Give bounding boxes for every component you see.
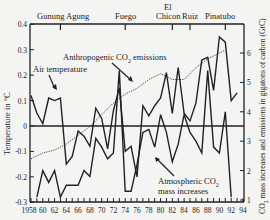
x-tick-label: 66 (74, 206, 82, 215)
x-tick-label: 62 (51, 206, 59, 215)
annotation-emissions: Anthropogenic CO2 emissions (63, 52, 167, 64)
x-tick-label: 76 (133, 206, 141, 215)
y-right-tick-label: 3 (247, 137, 251, 146)
x-tick-label: 72 (110, 206, 118, 215)
annotation-air-temperature: Air temperature (33, 64, 87, 74)
arrow-icon (112, 63, 131, 80)
y-right-tick-label: 2 (247, 167, 251, 176)
x-tick-label: 60 (39, 206, 47, 215)
y-tick-label: 0 (23, 122, 27, 131)
x-tick-label: 88 (204, 206, 212, 215)
y-right-tick-label: 1 (247, 196, 251, 205)
arrow-icon (157, 159, 174, 176)
annotation-co2-mass-2: mass increases (158, 186, 208, 196)
y-axis-title-left: Temperature in °C (2, 92, 12, 155)
x-tick-label: 68 (86, 206, 94, 215)
x-tick-label: 92 (227, 206, 235, 215)
x-tick-label: 78 (145, 206, 153, 215)
x-tick-label: 70 (98, 206, 106, 215)
x-tick-label: 64 (63, 206, 71, 215)
volcano-label: Gunung Agung (37, 11, 90, 21)
y-tick-label: 0.2 (18, 71, 28, 80)
arrowhead-icon (128, 76, 133, 82)
x-tick-label: 80 (157, 206, 165, 215)
chart: 1958606264666870727476788082848688909294… (0, 0, 270, 220)
x-tick-label: 94 (239, 206, 247, 215)
x-tick-label: 74 (121, 206, 129, 215)
volcano-label: Ruiz (182, 11, 198, 21)
x-tick-label: 90 (216, 206, 224, 215)
y-tick-label: -0.1 (15, 147, 27, 156)
volcano-label: Fuego (115, 11, 136, 21)
volcano-label: Chicon (156, 11, 181, 21)
y-right-tick-label: 6 (247, 49, 251, 58)
y-right-tick-label: 4 (247, 108, 251, 117)
y-tick-label: -0.2 (15, 173, 27, 182)
y-tick-label: 0.3 (18, 46, 28, 55)
x-tick-label: 84 (180, 206, 188, 215)
x-tick-label: 1958 (22, 206, 37, 215)
volcano-label: Pinatubo (205, 11, 235, 21)
x-tick-label: 82 (169, 206, 177, 215)
volcano-ticks (60, 24, 225, 30)
x-tick-label: 86 (192, 206, 200, 215)
y-right-tick-label: 5 (247, 78, 251, 87)
y-tick-label: 0.1 (18, 97, 28, 106)
y-tick-label: -0.3 (15, 198, 27, 207)
y-axis-title-right: CO2 mass increases and emissions in giga… (258, 18, 269, 214)
y-tick-label: 0.4 (18, 20, 28, 29)
